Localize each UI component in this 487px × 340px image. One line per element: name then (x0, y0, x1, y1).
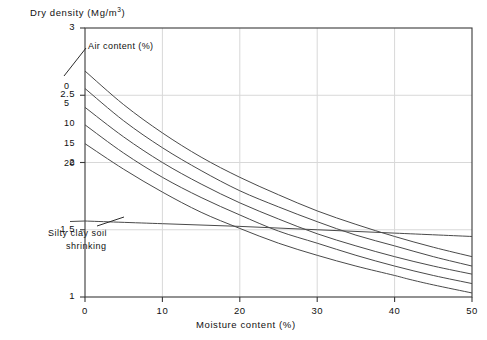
curve-5 (85, 89, 472, 267)
curve-label-air-15: 15 (64, 138, 75, 148)
y-tick-label: 1 (41, 290, 75, 301)
chart-figure: Dry density (Mg/m3) Moisture content (%)… (0, 0, 487, 340)
x-tick-label: 50 (458, 305, 486, 316)
curve-label-air-5: 5 (64, 98, 69, 108)
x-tick-label: 30 (303, 305, 331, 316)
curve-silty-clay-shrinking (85, 221, 472, 236)
curve-10 (85, 107, 472, 274)
y-tick-label: 2.5 (41, 88, 75, 99)
plot-canvas (0, 0, 487, 340)
x-tick-label: 40 (381, 305, 409, 316)
x-tick-label: 20 (226, 305, 254, 316)
y-tick-label: 3 (41, 21, 75, 32)
curves-group (70, 71, 472, 293)
curve-15 (85, 125, 472, 284)
curve-0 (85, 71, 472, 257)
silty-clay-left-stub (70, 221, 85, 222)
x-tick-label: 0 (71, 305, 99, 316)
curve-label-air-20: 20 (64, 158, 75, 168)
y-tick-label: 1.5 (41, 223, 75, 234)
x-tick-label: 10 (148, 305, 176, 316)
curve-label-air-0: 0 (64, 81, 69, 91)
curve-label-air-10: 10 (64, 118, 75, 128)
leader-line-air-content (64, 48, 86, 76)
